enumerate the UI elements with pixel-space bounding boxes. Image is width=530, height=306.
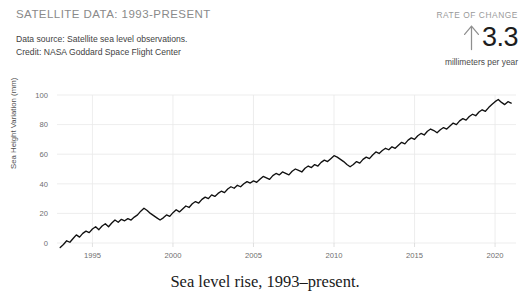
svg-text:2015: 2015	[406, 251, 423, 260]
svg-text:80: 80	[40, 120, 48, 129]
svg-text:1995: 1995	[84, 251, 101, 260]
sea-level-data-line	[60, 99, 511, 247]
x-gridlines	[92, 95, 495, 247]
svg-text:100: 100	[35, 91, 48, 100]
chart-canvas: 020406080100 199520002005201020152020 Se…	[0, 0, 530, 270]
svg-text:2000: 2000	[165, 251, 182, 260]
sea-level-chart: 020406080100 199520002005201020152020 Se…	[0, 0, 530, 270]
svg-text:2020: 2020	[487, 251, 504, 260]
svg-text:0: 0	[44, 239, 48, 248]
svg-text:2005: 2005	[245, 251, 262, 260]
y-gridlines	[57, 95, 516, 243]
figure-caption: Sea level rise, 1993–present.	[0, 272, 530, 292]
y-axis-tick-labels: 020406080100	[35, 91, 48, 248]
svg-text:40: 40	[40, 180, 48, 189]
y-axis-title: Sea Height Variation (mm)	[9, 77, 18, 169]
svg-text:60: 60	[40, 150, 48, 159]
svg-text:20: 20	[40, 209, 48, 218]
svg-text:2010: 2010	[326, 251, 343, 260]
x-axis-tick-labels: 199520002005201020152020	[84, 251, 504, 260]
